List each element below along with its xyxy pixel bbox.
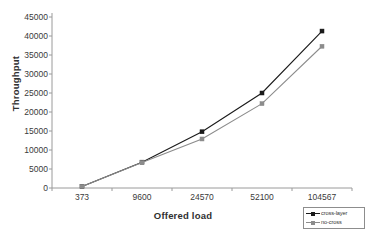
series-marker <box>200 130 204 134</box>
series-marker <box>260 102 264 106</box>
legend-item: no-cross <box>305 218 362 227</box>
x-axis-title: Offered load <box>48 210 318 221</box>
series-marker <box>200 137 204 141</box>
series-line-0 <box>82 31 322 186</box>
legend-label: cross-layer <box>321 209 347 218</box>
legend-label: no-cross <box>321 218 342 227</box>
chart-legend: cross-layerno-cross <box>303 207 365 229</box>
legend-item: cross-layer <box>305 209 362 218</box>
series-marker <box>80 184 84 188</box>
series-marker <box>320 29 324 33</box>
series-marker <box>260 91 264 95</box>
x-axis-tick-label: 104567 <box>287 192 357 202</box>
series-line-1 <box>82 46 322 186</box>
legend-marker-icon <box>305 218 321 227</box>
x-axis-tick-labels: 37396002457052100104567 <box>48 192 366 206</box>
series-marker <box>320 44 324 48</box>
legend-marker-icon <box>305 209 321 218</box>
chart-container: Throughput 05000100001500020000250003000… <box>0 0 373 239</box>
series-marker <box>140 161 144 165</box>
